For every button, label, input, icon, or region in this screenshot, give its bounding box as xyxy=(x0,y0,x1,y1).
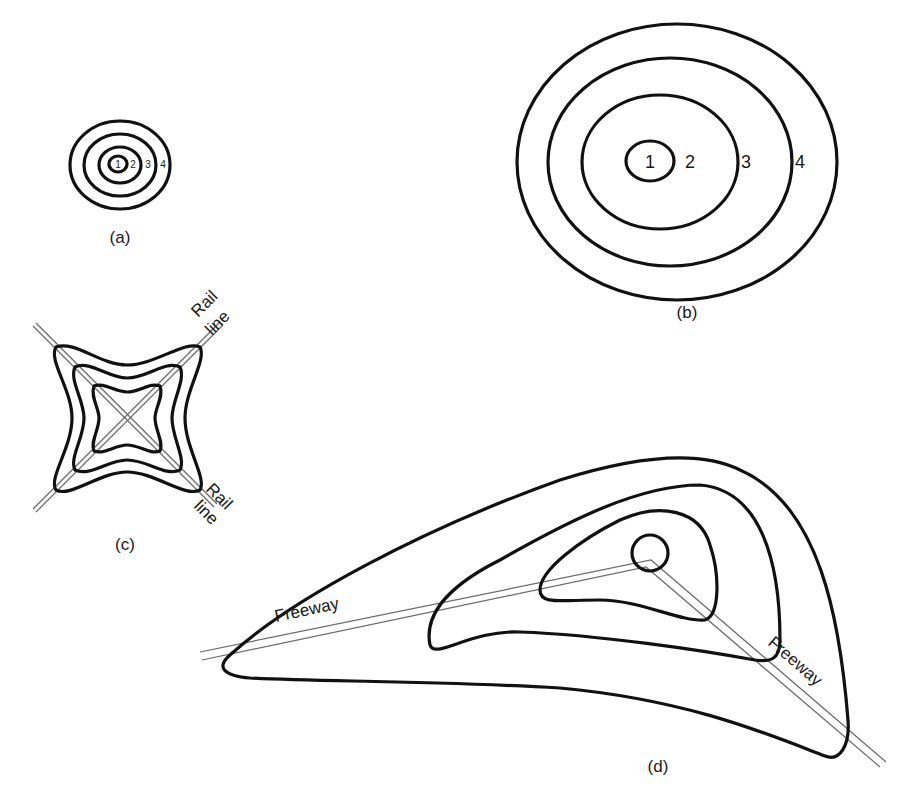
freeway-label-2: Freeway xyxy=(764,633,826,690)
zone-c-inner xyxy=(93,385,161,452)
caption-a: (a) xyxy=(110,228,131,247)
zone-b-label-3: 3 xyxy=(741,152,751,172)
zone-d-2 xyxy=(540,511,717,620)
panel-b: 1 2 3 4 (b) xyxy=(517,24,837,322)
freeway xyxy=(200,560,886,767)
zone-b-outer xyxy=(517,24,837,300)
zone-d-1 xyxy=(632,535,668,571)
zone-c-middle xyxy=(74,365,182,471)
panel-d: Freeway Freeway (d) xyxy=(200,458,886,776)
panel-a: 1 2 3 4 (a) xyxy=(70,121,170,247)
zone-a-label-3: 3 xyxy=(145,159,151,170)
zone-a-label-2: 2 xyxy=(130,159,136,170)
rail-line-2 xyxy=(33,322,223,512)
zone-b-label-4: 4 xyxy=(795,152,805,172)
figure-canvas: 1 2 3 4 (a) 1 2 3 4 (b) Rail xyxy=(0,0,905,805)
rail-line-1 xyxy=(33,323,217,507)
panel-c: Rail line Rail line (c) xyxy=(33,287,236,554)
zone-b-2 xyxy=(582,95,738,229)
zone-b-label-2: 2 xyxy=(685,152,695,172)
zone-b-label-1: 1 xyxy=(645,152,655,172)
zone-b-3 xyxy=(548,58,792,266)
zone-a-label-4: 4 xyxy=(160,159,166,170)
zone-a-label-1: 1 xyxy=(115,159,121,170)
caption-c: (c) xyxy=(115,535,135,554)
caption-b: (b) xyxy=(677,303,698,322)
caption-d: (d) xyxy=(648,757,669,776)
